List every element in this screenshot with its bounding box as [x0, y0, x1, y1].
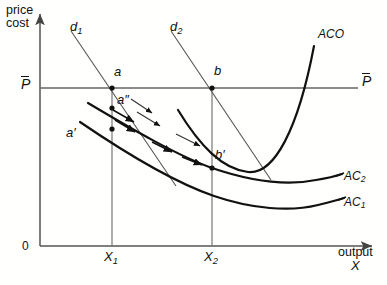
- point-b-text: b: [214, 63, 221, 78]
- x-axis-label: output X: [338, 246, 373, 273]
- y-axis-label-line2: cost: [6, 16, 29, 30]
- point-a2-prime: ″: [124, 92, 129, 107]
- ac2-base: AC: [344, 169, 361, 183]
- ac1-curve-label: AC1: [344, 196, 365, 210]
- price-label-left: P: [21, 77, 30, 92]
- price-label-right: P: [362, 74, 371, 89]
- ac1-sub: 1: [361, 200, 366, 210]
- aco-curve-label: ACO: [318, 28, 344, 41]
- diagram-canvas: price cost P P d1 d2 ACO AC2 AC1 a a″ a′…: [0, 0, 387, 285]
- adjustment-arrows: [113, 99, 202, 165]
- point-b-prime: [209, 165, 214, 170]
- point-a-text: a: [114, 64, 121, 79]
- average-cost-curve-ac2: [88, 103, 342, 183]
- flow-arrow-ac2-3: [182, 157, 202, 165]
- x-axis-label-line2: X: [338, 259, 373, 273]
- point-b-label: b: [214, 64, 221, 78]
- point-b: [209, 85, 214, 90]
- average-cost-curve-aco: [178, 46, 314, 172]
- aco-base: ACO: [318, 27, 344, 41]
- x1-sub: 1: [113, 256, 118, 266]
- ac2-curve-label: AC2: [344, 170, 365, 184]
- price-label-left-text: P: [21, 76, 30, 92]
- x1-base: X: [104, 249, 113, 264]
- demand-curve-d1: [71, 31, 176, 186]
- x-tick-label-x2: X2: [204, 250, 218, 266]
- y-axis-label: price cost: [6, 4, 33, 30]
- axis-group: [40, 14, 372, 246]
- x2-sub: 2: [213, 256, 218, 266]
- ac1-base: AC: [344, 195, 361, 209]
- economics-diagram-svg: [0, 0, 387, 285]
- ac2-sub: 2: [361, 174, 366, 184]
- point-a: [109, 85, 114, 90]
- point-a-label: a: [114, 65, 121, 79]
- price-label-right-text: P: [362, 73, 371, 89]
- flow-arrow-ac2-2: [152, 142, 172, 152]
- point-a-prime-label: a′: [66, 126, 76, 140]
- origin-text: 0: [22, 239, 29, 253]
- y-axis-label-line1: price: [6, 3, 33, 17]
- point-a-double-prime-label: a″: [117, 93, 129, 107]
- point-b1-prime: ′: [222, 147, 224, 162]
- point-a-prime: [109, 126, 114, 131]
- x-axis-label-line1: output: [338, 245, 373, 259]
- origin-label: 0: [22, 240, 29, 253]
- point-a1-prime: ′: [73, 125, 75, 140]
- demand-curve-d2-label: d2: [170, 20, 182, 36]
- d1-sub: 1: [77, 26, 82, 36]
- x2-base: X: [204, 249, 213, 264]
- point-b-prime-label: b′: [215, 148, 225, 162]
- demand-curve-d1-label: d1: [70, 20, 82, 36]
- flow-arrow-thin-1: [137, 112, 160, 126]
- x-tick-label-x1: X1: [104, 250, 118, 266]
- d2-sub: 2: [177, 26, 182, 36]
- point-a-double-prime: [109, 105, 114, 110]
- flow-arrow-thin-3: [131, 99, 152, 113]
